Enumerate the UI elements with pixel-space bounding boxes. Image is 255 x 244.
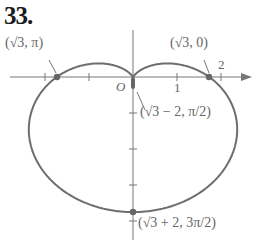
tick-label-1: 1 — [174, 80, 181, 96]
label-p3: (√3 − 2, π/2) — [140, 104, 211, 120]
label-p3-r: (√3 − 2, — [140, 104, 185, 119]
point-origin-region — [131, 77, 135, 89]
label-p3-theta: π/2) — [188, 104, 211, 119]
problem-number: 33. — [4, 2, 32, 30]
leader-arrow-p2 — [204, 60, 209, 73]
label-p4: (√3 + 2, 3π/2) — [138, 215, 216, 231]
point-sqrt3plus2-3pi2 — [130, 209, 136, 215]
point-sqrt3-pi — [54, 74, 60, 80]
label-p2: (√3, 0) — [170, 35, 208, 51]
tick-label-2: 2 — [218, 57, 225, 73]
label-p1: (√3, π) — [5, 35, 43, 51]
leader-arrow-p1 — [49, 60, 56, 73]
label-p4-theta: 3π/2) — [186, 215, 216, 230]
point-sqrt3-0 — [206, 74, 212, 80]
label-p4-r: (√3 + 2, — [138, 215, 183, 230]
origin-label: O — [116, 79, 125, 95]
x-axis-arrow-icon — [241, 73, 252, 81]
